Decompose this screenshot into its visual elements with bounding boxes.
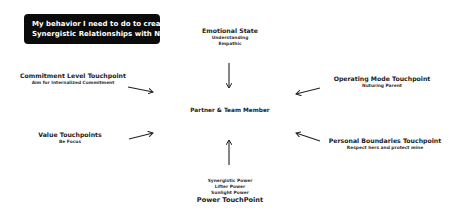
arrow-right-up-icon — [129, 133, 153, 139]
arrows-layer — [0, 0, 450, 218]
arrow-right-down-icon — [128, 87, 153, 92]
arrow-left-up-icon — [296, 133, 320, 141]
arrow-left-down-icon — [296, 88, 320, 94]
